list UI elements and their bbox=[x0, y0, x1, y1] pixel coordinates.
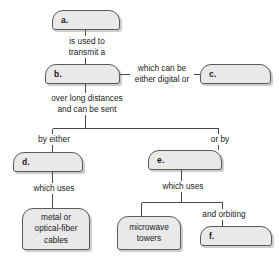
edge-label-e-to-f: and orbiting bbox=[194, 209, 254, 220]
node-b[interactable]: b. bbox=[45, 64, 120, 84]
node-a[interactable]: a. bbox=[52, 10, 120, 30]
node-d-label: d. bbox=[14, 158, 30, 167]
node-c[interactable]: c. bbox=[200, 64, 271, 84]
node-e[interactable]: e. bbox=[148, 150, 222, 170]
node-c-label: c. bbox=[201, 70, 217, 79]
node-f-label: f. bbox=[201, 232, 215, 241]
node-towers[interactable]: microwave towers bbox=[117, 216, 181, 250]
edge-label-fork-to-e: or by bbox=[198, 134, 242, 145]
edge-label-a-to-b: is used to transmit a bbox=[52, 36, 122, 58]
node-e-label: e. bbox=[149, 156, 165, 165]
node-towers-label: microwave towers bbox=[124, 222, 174, 245]
concept-map-diagram: a. b. c. d. e. f. metal or optical-fiber… bbox=[0, 0, 279, 259]
node-cables[interactable]: metal or optical-fiber cables bbox=[22, 208, 90, 250]
edge-label-d-to-cables: which uses bbox=[22, 183, 86, 194]
node-d[interactable]: d. bbox=[13, 152, 83, 172]
node-a-label: a. bbox=[53, 16, 69, 25]
node-b-label: b. bbox=[46, 70, 62, 79]
edge-label-e-to-fork: which uses bbox=[151, 181, 215, 192]
edge-label-fork-to-d: by either bbox=[26, 134, 82, 145]
node-f[interactable]: f. bbox=[200, 226, 272, 246]
node-cables-label: metal or optical-fiber cables bbox=[30, 212, 83, 247]
edge-label-b-to-fork: over long distances and can be sent bbox=[30, 93, 144, 115]
edge-label-b-to-c: which can be either digital or bbox=[130, 63, 194, 85]
